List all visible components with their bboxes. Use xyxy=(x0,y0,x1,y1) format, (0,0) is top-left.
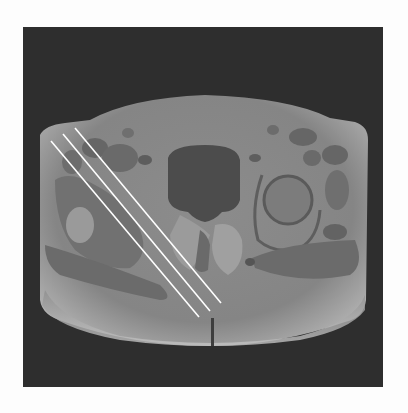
femoral-head xyxy=(264,176,312,224)
mri-axial-pelvis-image xyxy=(0,0,408,413)
